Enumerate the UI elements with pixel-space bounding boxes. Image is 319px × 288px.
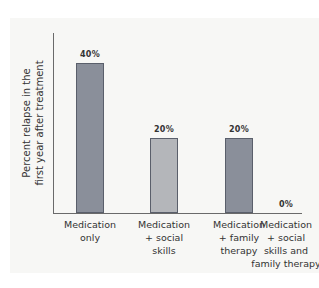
x-tick-label-line: skills bbox=[126, 244, 202, 257]
y-axis-label-line-2: first year after treatment bbox=[33, 60, 46, 185]
x-tick-label-line: Medication bbox=[248, 218, 319, 231]
x-tick-label-line: Medication bbox=[126, 218, 202, 231]
y-axis-label-line-1: Percent relapse in the bbox=[20, 60, 33, 185]
x-tick-label-line: Medication bbox=[52, 218, 128, 231]
y-axis-line bbox=[53, 33, 54, 214]
y-axis-label: Percent relapse in the first year after … bbox=[20, 60, 46, 185]
bar-value-label: 0% bbox=[266, 200, 306, 209]
x-tick-label: Medicationonly bbox=[52, 218, 128, 244]
bar bbox=[150, 138, 178, 213]
bar bbox=[225, 138, 253, 213]
x-tick-label: Medication+ socialskills andfamily thera… bbox=[248, 218, 319, 270]
bar-value-label: 40% bbox=[70, 50, 110, 59]
bar-value-label: 20% bbox=[219, 125, 259, 134]
x-tick-label-line: + social bbox=[126, 231, 202, 244]
bar bbox=[76, 63, 104, 213]
bar-value-label: 20% bbox=[144, 125, 184, 134]
x-tick-label: Medication+ socialskills bbox=[126, 218, 202, 257]
x-tick-label-line: only bbox=[52, 231, 128, 244]
x-tick-label-line: + social bbox=[248, 231, 319, 244]
x-axis-line bbox=[53, 213, 302, 214]
x-tick-label-line: skills and bbox=[248, 244, 319, 257]
x-tick-label-line: family therapy bbox=[248, 257, 319, 270]
